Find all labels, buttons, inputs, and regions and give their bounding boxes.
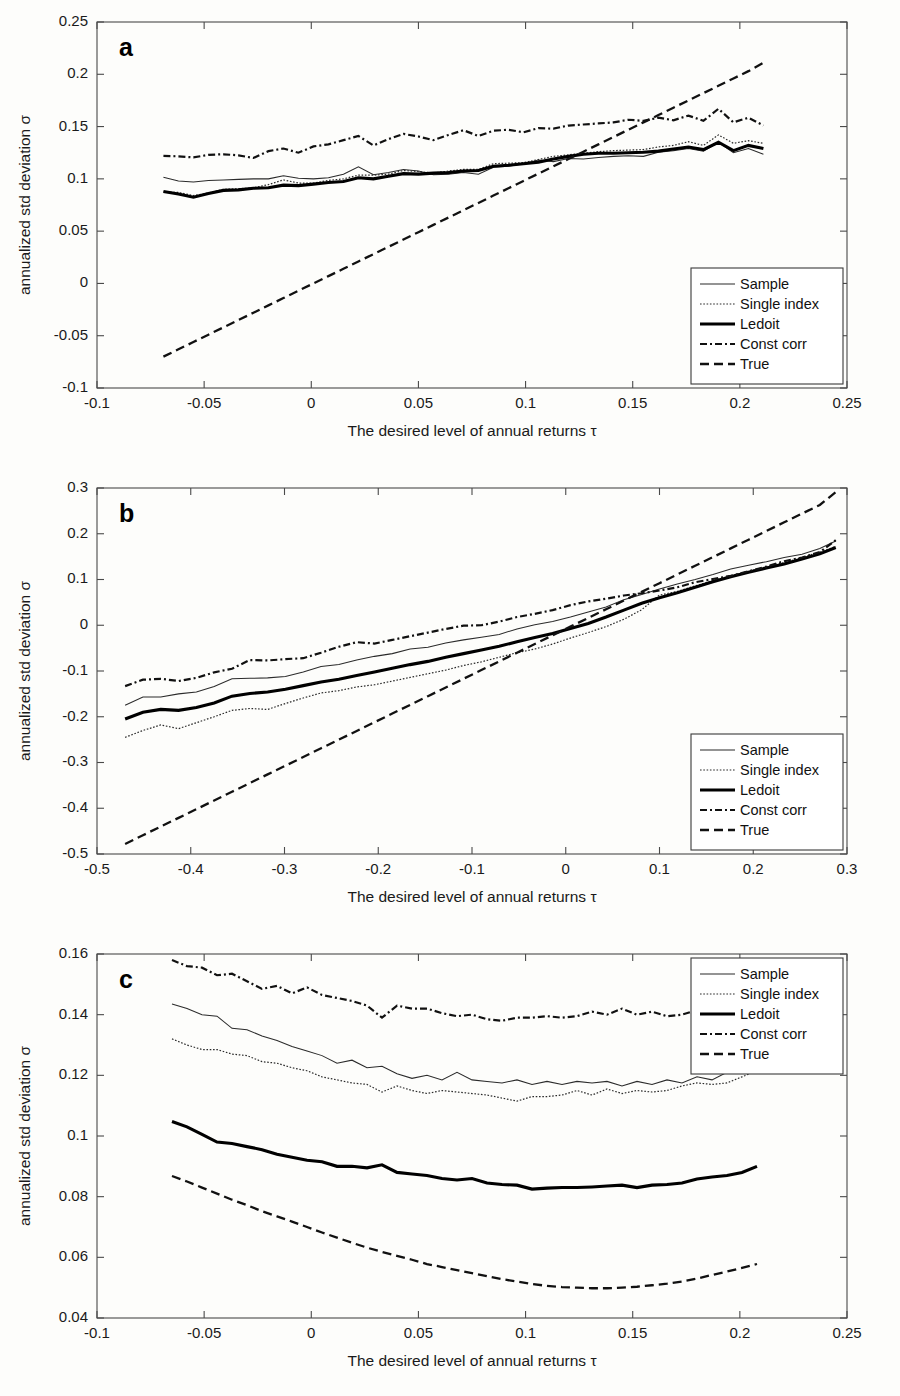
legend-label: True (740, 1046, 769, 1062)
legend-c: SampleSingle indexLedoitConst corrTrue (691, 958, 843, 1074)
x-tick-label: -0.1 (84, 394, 110, 411)
legend-label: Const corr (740, 1026, 807, 1042)
series-line-const-corr (125, 540, 836, 686)
legend-label: Sample (740, 276, 789, 292)
legend-label: True (740, 822, 769, 838)
x-tick-label: 0.05 (404, 394, 433, 411)
y-tick-label: -0.4 (62, 798, 88, 815)
series-group (172, 960, 757, 1288)
y-tick-label: 0.05 (59, 221, 88, 238)
x-tick-label: -0.05 (187, 394, 221, 411)
x-tick-label: 0.15 (618, 394, 647, 411)
y-tick-label: 0.15 (59, 117, 88, 134)
y-tick-label: 0.16 (59, 944, 88, 961)
y-tick-label: 0 (80, 615, 88, 632)
x-tick-label: -0.4 (178, 860, 204, 877)
legend-label: True (740, 356, 769, 372)
figure-container: -0.1-0.0500.050.10.150.20.25-0.1-0.0500.… (0, 0, 900, 1396)
x-tick-label: 0.1 (515, 1324, 536, 1341)
panel-letter-c: c (119, 965, 133, 993)
legend-label: Ledoit (740, 782, 780, 798)
y-tick-label: 0.06 (59, 1247, 88, 1264)
y-tick-label: 0.25 (59, 12, 88, 29)
series-line-ledoit (125, 547, 836, 719)
series-line-sample (125, 541, 836, 705)
x-tick-label: -0.1 (84, 1324, 110, 1341)
x-tick-label: -0.5 (84, 860, 110, 877)
y-tick-label: 0.04 (59, 1308, 88, 1325)
y-axis-title: annualized std deviation σ (16, 1045, 33, 1226)
chart-panel-b: -0.5-0.4-0.3-0.2-0.100.10.20.3-0.5-0.4-0… (0, 466, 900, 932)
y-tick-label: -0.2 (62, 707, 88, 724)
legend-b: SampleSingle indexLedoitConst corrTrue (691, 734, 843, 850)
y-tick-label: -0.3 (62, 752, 88, 769)
y-tick-label: 0.08 (59, 1187, 88, 1204)
legend-label: Single index (740, 296, 820, 312)
legend-label: Const corr (740, 802, 807, 818)
x-tick-label: -0.1 (459, 860, 485, 877)
y-tick-label: 0.2 (67, 524, 88, 541)
x-tick-label: 0.1 (515, 394, 536, 411)
y-axis-title: annualized std deviation σ (16, 114, 33, 295)
series-line-const-corr (172, 960, 757, 1021)
x-axis-title: The desired level of annual returns τ (347, 1352, 596, 1369)
legend-label: Const corr (740, 336, 807, 352)
series-line-true (172, 1176, 757, 1288)
series-line-ledoit (163, 142, 763, 197)
chart-panel-a: -0.1-0.0500.050.10.150.20.25-0.1-0.0500.… (0, 0, 900, 466)
y-axis-title: annualized std deviation σ (16, 580, 33, 761)
series-line-single-index (172, 1039, 757, 1101)
legend-label: Sample (740, 966, 789, 982)
legend-label: Ledoit (740, 316, 780, 332)
x-tick-label: 0.2 (729, 394, 750, 411)
legend-label: Single index (740, 762, 820, 778)
panel-letter-a: a (119, 33, 134, 61)
chart-svg-c: -0.1-0.0500.050.10.150.20.250.040.060.08… (0, 932, 900, 1396)
y-tick-label: 0.1 (67, 169, 88, 186)
series-line-true (163, 63, 763, 357)
x-tick-label: 0 (307, 1324, 315, 1341)
x-tick-label: 0.25 (832, 1324, 861, 1341)
y-tick-label: 0.1 (67, 569, 88, 586)
x-tick-label: 0.05 (404, 1324, 433, 1341)
y-tick-label: 0.1 (67, 1126, 88, 1143)
legend-label: Single index (740, 986, 820, 1002)
y-tick-label: 0.3 (67, 478, 88, 495)
x-axis-title: The desired level of annual returns τ (347, 422, 596, 439)
series-line-single-index (163, 135, 763, 196)
x-tick-label: -0.05 (187, 1324, 221, 1341)
x-tick-label: -0.3 (272, 860, 298, 877)
x-tick-label: 0.3 (837, 860, 858, 877)
x-tick-label: 0.25 (832, 394, 861, 411)
chart-svg-b: -0.5-0.4-0.3-0.2-0.100.10.20.3-0.5-0.4-0… (0, 466, 900, 932)
x-tick-label: 0.2 (729, 1324, 750, 1341)
x-axis-title: The desired level of annual returns τ (347, 888, 596, 905)
x-tick-label: 0.15 (618, 1324, 647, 1341)
series-line-ledoit (172, 1121, 757, 1189)
x-tick-label: 0.2 (743, 860, 764, 877)
y-tick-label: -0.05 (54, 326, 88, 343)
y-tick-label: 0.12 (59, 1065, 88, 1082)
series-group (163, 63, 763, 357)
x-tick-label: 0 (307, 394, 315, 411)
legend-label: Ledoit (740, 1006, 780, 1022)
panel-letter-b: b (119, 499, 134, 527)
legend-label: Sample (740, 742, 789, 758)
y-tick-label: 0.2 (67, 64, 88, 81)
y-tick-label: -0.1 (62, 661, 88, 678)
y-tick-label: -0.5 (62, 844, 88, 861)
chart-panel-c: -0.1-0.0500.050.10.150.20.250.040.060.08… (0, 932, 900, 1396)
y-tick-label: 0 (80, 273, 88, 290)
x-tick-label: 0 (562, 860, 570, 877)
y-tick-label: 0.14 (59, 1005, 88, 1022)
y-tick-label: -0.1 (62, 378, 88, 395)
legend-a: SampleSingle indexLedoitConst corrTrue (691, 268, 843, 384)
x-tick-label: 0.1 (649, 860, 670, 877)
x-tick-label: -0.2 (365, 860, 391, 877)
chart-svg-a: -0.1-0.0500.050.10.150.20.25-0.1-0.0500.… (0, 0, 900, 466)
